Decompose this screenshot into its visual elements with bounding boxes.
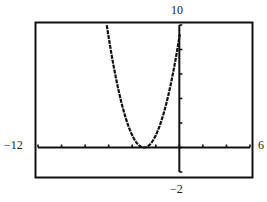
tick-marks xyxy=(38,25,250,172)
parabola-curve xyxy=(107,25,180,147)
graph-plot xyxy=(0,0,267,202)
axes xyxy=(38,25,250,172)
viewing-window-frame xyxy=(36,23,253,178)
